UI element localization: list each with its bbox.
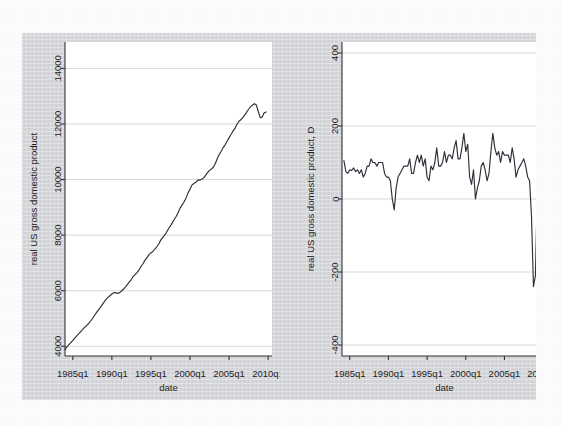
x-axis: 1985q11990q11995q12000q12005q12010q1 [334,356,536,379]
x-tick-label: 2000q1 [450,368,482,379]
x-tick-label: 1995q1 [135,368,167,379]
y-tick-label: 0 [330,196,341,201]
y-tick-label: -200 [330,263,341,282]
right-x-axis-title: date [280,400,281,401]
figure-panel: 400060008000100001200014000real US gross… [22,33,536,400]
x-tick-label: 1990q1 [96,368,128,379]
x-tick-label: 2010q1 [527,368,536,379]
x-tick-label: 2000q1 [174,368,206,379]
x-tick-label: 2005q1 [489,368,521,379]
plot-area-background [65,42,272,356]
x-tick-label: 1995q1 [411,368,443,379]
x-axis-title: date [159,382,178,393]
y-tick-label: 14000 [53,55,64,81]
x-tick-label: 1985q1 [334,368,366,379]
y-tick-label: 200 [330,118,341,134]
y-tick-label: 6000 [53,280,64,301]
figure-screenshot: 400060008000100001200014000real US gross… [0,0,562,426]
gdp-level-chart: 400060008000100001200014000real US gross… [22,33,280,400]
y-tick-label: 12000 [53,111,64,137]
x-axis: 1985q11990q11995q12000q12005q12010q1 [57,356,280,379]
y-axis: 400060008000100001200014000 [53,42,66,357]
right-y-axis-title: real US gross domestic product, D [280,400,281,401]
x-tick-label: 1985q1 [57,368,89,379]
left-x-axis-title: date [22,400,23,401]
x-axis-title: date [435,382,454,393]
y-axis: -400-2000200400 [330,42,343,356]
subplot-gdp-difference: -400-2000200400real US gross domestic pr… [280,33,536,400]
subplot-gdp-level: 400060008000100001200014000real US gross… [22,33,280,400]
x-tick-label: 1990q1 [373,368,405,379]
y-tick-label: -400 [330,336,341,355]
y-axis-title: real US gross domestic product, D [305,127,316,272]
y-axis-title: real US gross domestic product [28,132,39,265]
x-tick-label: 2010q1 [252,368,280,379]
x-tick-label: 2005q1 [213,368,245,379]
y-tick-label: 10000 [53,166,64,192]
gdp-difference-chart: -400-2000200400real US gross domestic pr… [280,33,536,400]
y-tick-label: 4000 [53,336,64,357]
y-tick-label: 400 [330,45,341,61]
y-tick-label: 8000 [53,225,64,246]
left-y-axis-title: real US gross domestic product [22,400,23,401]
